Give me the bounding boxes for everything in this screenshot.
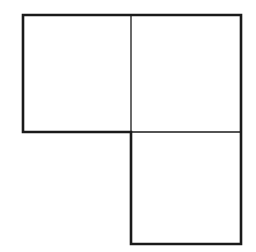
diagram-background <box>0 0 256 252</box>
l-shape-diagram <box>0 0 256 252</box>
